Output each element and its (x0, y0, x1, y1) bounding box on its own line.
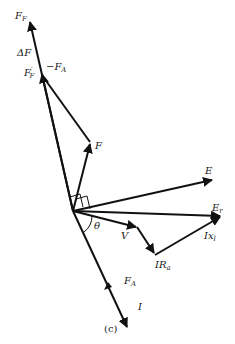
theta-arc (84, 216, 92, 232)
label-F-F: FF (14, 10, 28, 23)
figure-caption: (c) (104, 323, 118, 334)
arrowhead-F-A (104, 282, 112, 290)
label-theta: θ (94, 220, 100, 231)
label-E: E (204, 165, 213, 176)
label-IR-a: IRa (154, 259, 171, 272)
label-F: F (94, 140, 103, 151)
vector-E-r (73, 211, 220, 216)
label-V: V (121, 230, 130, 241)
label-E-r: Er (211, 202, 223, 215)
label-F-A: FA (123, 275, 136, 288)
label-I: I (137, 301, 143, 312)
label-Ix-l: Ixl (203, 230, 216, 243)
label-minus-F-A: −FA (46, 61, 66, 74)
vector-minus-F-A (42, 74, 73, 211)
phasor-diagram: FF ΔF F′F −FA F E Er θ V Ixl IRa FA I (c… (0, 0, 235, 344)
vector-IR-a (137, 227, 154, 253)
label-delta-F: ΔF (16, 47, 32, 58)
vector-E (73, 180, 212, 211)
label-F-F-prime: F′F (23, 66, 36, 80)
